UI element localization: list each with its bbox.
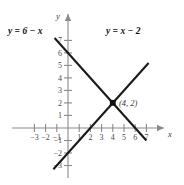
y-tick-label-1: 1: [58, 111, 62, 120]
y-tick-label-5: 5: [58, 61, 62, 70]
y-tick-label-3: 3: [58, 86, 62, 95]
y-axis-label: y: [55, 11, 60, 21]
x-axis-arrow-icon: [157, 125, 164, 131]
x-tick-label-6: 6: [133, 133, 137, 142]
x-axis-label: x: [167, 129, 172, 139]
intersection-point-marker: [110, 100, 116, 106]
y-tick-label-6: 6: [58, 49, 62, 58]
y-tick-label--1: −1: [53, 136, 62, 145]
x-tick-label-5: 5: [122, 133, 126, 142]
y-tick-label--2: −2: [53, 149, 62, 158]
y-tick-label-2: 2: [58, 99, 62, 108]
y-tick-label-4: 4: [58, 74, 62, 83]
intersection-point-label: (4, 2): [119, 98, 138, 108]
coordinate-plane-svg: −3 −2 −1 1 2 3 4 5 6 7 7 6 5 4 3 2 1 −1 …: [0, 0, 184, 185]
x-tick-label-3: 3: [100, 133, 104, 142]
x-tick-labels: −3 −2 −1 1 2 3 4 5 6 7: [30, 133, 148, 142]
equation-label-line2: y = x − 2: [105, 26, 141, 36]
y-axis-arrow-icon: [65, 14, 71, 21]
x-tick-label-4: 4: [111, 133, 115, 142]
x-tick-label-2: 2: [88, 133, 92, 142]
equation-label-line1: y = 6 − x: [7, 26, 43, 36]
y-tick-labels: 7 6 5 4 3 2 1 −1 −2 −3: [53, 36, 62, 170]
x-tick-label--3: −3: [30, 133, 39, 142]
graph-figure: −3 −2 −1 1 2 3 4 5 6 7 7 6 5 4 3 2 1 −1 …: [0, 0, 184, 185]
x-tick-label--2: −2: [41, 133, 50, 142]
